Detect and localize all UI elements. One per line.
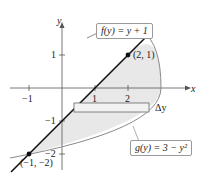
- curve-label-g: g(y) = 3 − y²: [130, 140, 192, 156]
- y-axis-label: y: [57, 16, 61, 26]
- y-tick-label: −1: [45, 116, 56, 126]
- x-axis-label: x: [191, 84, 195, 94]
- x-tick-label: 2: [125, 94, 130, 104]
- point-label: (2, 1): [133, 50, 155, 60]
- point-label: (−1, −2): [20, 158, 53, 168]
- representative-rectangle: [74, 103, 149, 112]
- curve-label-f: f(y) = y + 1: [96, 23, 153, 39]
- x-tick-label: 1: [92, 94, 97, 104]
- y-tick-label: 1: [51, 50, 56, 60]
- intersection-point: [27, 152, 32, 157]
- intersection-point: [126, 53, 131, 58]
- x-tick-label: −1: [22, 94, 33, 104]
- delta-y-label: Δy: [155, 103, 166, 113]
